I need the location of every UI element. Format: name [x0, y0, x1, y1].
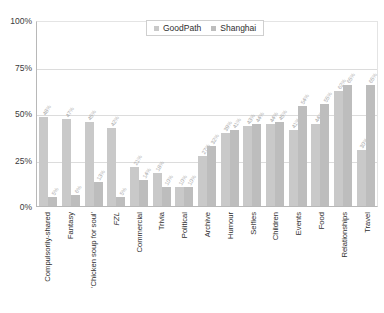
legend-item-goodpath: GoodPath	[154, 23, 201, 33]
legend-label: GoodPath	[163, 23, 201, 33]
x-axis-cell: Political	[173, 210, 196, 310]
bar-shanghai: 41%	[230, 130, 239, 206]
bar-shanghai: 45%	[275, 122, 284, 206]
bar-goodpath: 10%	[175, 187, 184, 206]
legend-item-shanghai: Shanghai	[211, 23, 256, 33]
bar-shanghai: 6%	[71, 195, 80, 206]
x-axis-cell: Fantasy	[59, 210, 82, 310]
bar-value-label: 6%	[73, 184, 82, 194]
bar-goodpath: 39%	[221, 133, 230, 206]
bar-shanghai: 54%	[298, 106, 307, 206]
x-axis-label: Travel	[362, 212, 371, 233]
x-axis-cell: Archive	[196, 210, 219, 310]
bar-goodpath: 41%	[289, 130, 298, 206]
bar-goodpath: 18%	[153, 173, 162, 206]
x-axis-cell: Trivia	[150, 210, 173, 310]
bar-goodpath: 48%	[39, 117, 48, 206]
bar-shanghai: 5%	[116, 197, 125, 206]
x-axis-label: Food	[316, 212, 325, 229]
x-axis-label: Trivia	[157, 212, 166, 230]
y-tick-label: 75%	[0, 63, 32, 73]
x-axis-label: Events	[294, 212, 303, 235]
legend-label: Shanghai	[220, 23, 256, 33]
bar-group: 30%65%	[354, 22, 377, 206]
y-tick-label: 25%	[0, 156, 32, 166]
bar-group: 48%5%	[37, 22, 60, 206]
x-axis-cell: Food	[310, 210, 333, 310]
x-axis-label: Fantasy	[66, 212, 75, 239]
x-axis-cell: 'Chicken soup for soul'	[82, 210, 105, 310]
bar-value-label: 42%	[109, 115, 120, 127]
bar-group: 62%65%	[332, 22, 355, 206]
bar-goodpath: 30%	[357, 150, 366, 206]
bar-group: 18%10%	[150, 22, 173, 206]
bar-value-label: 47%	[64, 106, 75, 118]
bar-value-label: 65%	[368, 72, 379, 84]
x-axis-cell: Compulsorily-shared	[36, 210, 59, 310]
bar-group: 27%32%	[196, 22, 219, 206]
bar-shanghai: 55%	[320, 104, 329, 206]
bar-shanghai: 10%	[162, 187, 171, 206]
legend-swatch-icon	[154, 26, 159, 31]
y-tick-label: 50%	[0, 109, 32, 119]
bar-goodpath: 44%	[266, 124, 275, 206]
x-axis-label: Commercial	[134, 212, 143, 253]
bar-shanghai: 13%	[94, 182, 103, 206]
x-axis-label: Political	[180, 212, 189, 238]
x-axis-label: Humour	[225, 212, 234, 239]
x-axis-cell: Humour	[218, 210, 241, 310]
bar-goodpath: 42%	[107, 128, 116, 206]
bar-groups: 48%5%47%6%45%13%42%5%21%14%18%10%10%10%2…	[37, 22, 377, 206]
x-axis-label: Relationships	[339, 212, 348, 258]
bar-chart: 100% 75% 50% 25% 0% 48%5%47%6%45%13%42%5…	[0, 0, 384, 313]
x-axis-cell: Children	[264, 210, 287, 310]
bar-group: 42%5%	[105, 22, 128, 206]
bar-goodpath: 45%	[85, 122, 94, 206]
bar-value-label: 21%	[132, 154, 143, 166]
bar-shanghai: 65%	[366, 85, 375, 206]
bar-shanghai: 10%	[184, 187, 193, 206]
bar-shanghai: 5%	[48, 197, 57, 206]
bar-value-label: 5%	[50, 186, 59, 196]
x-axis-label: Children	[271, 212, 280, 240]
bar-value-label: 48%	[41, 104, 52, 116]
bar-value-label: 10%	[177, 174, 188, 186]
x-axis-label: FZL	[111, 212, 120, 226]
bar-group: 47%6%	[60, 22, 83, 206]
x-axis-cell: Travel	[355, 210, 378, 310]
x-axis-label: Compulsorily-shared	[43, 212, 52, 282]
bar-group: 44%45%	[264, 22, 287, 206]
plot-area: 48%5%47%6%45%13%42%5%21%14%18%10%10%10%2…	[36, 21, 378, 207]
bar-goodpath: 47%	[62, 119, 71, 206]
bar-goodpath: 43%	[243, 126, 252, 206]
bar-goodpath: 21%	[130, 167, 139, 206]
x-axis-label: 'Chicken soup for soul'	[88, 212, 97, 288]
bar-goodpath: 44%	[311, 124, 320, 206]
bar-group: 21%14%	[128, 22, 151, 206]
chart-legend: GoodPath Shanghai	[146, 20, 264, 36]
bar-group: 41%54%	[286, 22, 309, 206]
legend-swatch-icon	[211, 26, 216, 31]
bar-value-label: 5%	[118, 186, 127, 196]
x-axis-cell: Events	[287, 210, 310, 310]
x-axis-cell: Relationships	[332, 210, 355, 310]
bar-shanghai: 14%	[139, 180, 148, 206]
bar-goodpath: 27%	[198, 156, 207, 206]
bar-shanghai: 65%	[343, 85, 352, 206]
y-tick-label: 100%	[0, 16, 32, 26]
bar-group: 10%10%	[173, 22, 196, 206]
x-axis-label: Selfies	[248, 212, 257, 235]
bar-shanghai: 32%	[207, 146, 216, 206]
x-axis-cell: Selfies	[241, 210, 264, 310]
bar-goodpath: 62%	[334, 91, 343, 206]
x-axis-cell: FZL	[104, 210, 127, 310]
bar-value-label: 45%	[87, 109, 98, 121]
bar-group: 45%13%	[82, 22, 105, 206]
bar-group: 44%55%	[309, 22, 332, 206]
bar-shanghai: 44%	[252, 124, 261, 206]
bar-group: 39%41%	[218, 22, 241, 206]
y-tick-label: 0%	[0, 202, 32, 212]
x-axis-labels: Compulsorily-sharedFantasy'Chicken soup …	[36, 210, 378, 310]
bar-group: 43%44%	[241, 22, 264, 206]
bar-value-label: 18%	[155, 160, 166, 172]
